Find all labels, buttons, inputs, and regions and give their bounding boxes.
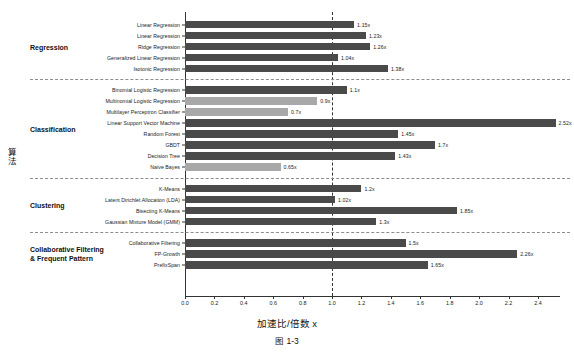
bar bbox=[185, 250, 517, 257]
bar-value-label: 1.45x bbox=[401, 131, 414, 137]
group-label-line: & Frequent Pattern bbox=[30, 254, 104, 263]
bar bbox=[185, 163, 281, 170]
bar bbox=[185, 239, 406, 246]
bar-value-label: 1.02x bbox=[338, 197, 351, 203]
x-axis-tick-label: 2.0 bbox=[475, 300, 483, 306]
bar bbox=[185, 185, 361, 192]
x-axis-tick-label: 0.8 bbox=[299, 300, 307, 306]
group-separator bbox=[30, 79, 570, 80]
category-label: Binomial Logistic Regression bbox=[112, 87, 180, 93]
bar bbox=[185, 43, 370, 50]
bar-value-label: 0.9x bbox=[320, 98, 330, 104]
x-axis-tick bbox=[185, 296, 186, 299]
x-axis-tick-label: 0.0 bbox=[181, 300, 189, 306]
x-axis-tick bbox=[538, 296, 539, 299]
bar-value-label: 2.26x bbox=[520, 251, 533, 257]
bar bbox=[185, 21, 354, 28]
bar-value-label: 1.3x bbox=[379, 219, 389, 225]
group-label-line: Clustering bbox=[30, 201, 65, 210]
category-label: FP-Growth bbox=[154, 251, 180, 257]
category-label: Bisecting K-Means bbox=[136, 208, 180, 214]
bar bbox=[185, 152, 395, 159]
bar bbox=[185, 97, 317, 104]
bar bbox=[185, 65, 388, 72]
x-axis-tick-label: 0.4 bbox=[240, 300, 248, 306]
x-axis-tick-label: 0.6 bbox=[269, 300, 277, 306]
x-axis-tick bbox=[214, 296, 215, 299]
group-label: Classification bbox=[30, 124, 76, 133]
group-label: Clustering bbox=[30, 201, 65, 210]
category-label: Latent Dirichlet Allocation (LDA) bbox=[105, 197, 180, 203]
figure-container: 算法 加速比/倍数 x 图 1-3 0.00.20.40.60.81.01.21… bbox=[0, 0, 574, 355]
bar-value-label: 1.85x bbox=[460, 208, 473, 214]
x-axis-tick bbox=[509, 296, 510, 299]
category-label: Linear Regression bbox=[137, 33, 180, 39]
category-label: Random Forest bbox=[144, 131, 180, 137]
x-axis-tick bbox=[391, 296, 392, 299]
category-label: Isotonic Regression bbox=[133, 66, 180, 72]
bar-value-label: 1.04x bbox=[341, 55, 354, 61]
group-label: Collaborative Filtering& Frequent Patter… bbox=[30, 245, 104, 263]
bar-value-label: 1.43x bbox=[398, 153, 411, 159]
category-label: Multilayer Perceptron Classifier bbox=[107, 109, 180, 115]
bar bbox=[185, 261, 428, 268]
bar bbox=[185, 86, 347, 93]
bar-value-label: 0.65x bbox=[284, 164, 297, 170]
x-axis-tick-label: 2.2 bbox=[505, 300, 513, 306]
bar bbox=[185, 32, 366, 39]
group-label-line: Classification bbox=[30, 124, 76, 133]
bar-value-label: 1.1x bbox=[350, 87, 360, 93]
category-label: Ridge Regression bbox=[138, 44, 180, 50]
x-axis-tick bbox=[303, 296, 304, 299]
category-label: PrefixSpan bbox=[154, 262, 180, 268]
group-separator bbox=[30, 232, 570, 233]
category-label: GBDT bbox=[165, 142, 180, 148]
x-axis-tick bbox=[479, 296, 480, 299]
bar bbox=[185, 218, 376, 225]
bar-value-label: 1.2x bbox=[364, 186, 374, 192]
bar-value-label: 0.7x bbox=[291, 109, 301, 115]
category-label: Linear Regression bbox=[137, 22, 180, 28]
x-axis-tick-label: 1.6 bbox=[417, 300, 425, 306]
x-axis-tick-label: 1.4 bbox=[387, 300, 395, 306]
x-axis-tick-label: 2.4 bbox=[534, 300, 542, 306]
x-axis-tick-label: 1.8 bbox=[446, 300, 454, 306]
x-axis-tick bbox=[361, 296, 362, 299]
bar-value-label: 2.52x bbox=[559, 120, 572, 126]
bar bbox=[185, 207, 457, 214]
bar-value-label: 1.7x bbox=[438, 142, 448, 148]
bar bbox=[185, 141, 435, 148]
bar-value-label: 1.65x bbox=[431, 262, 444, 268]
bar-value-label: 1.23x bbox=[369, 33, 382, 39]
group-label-line: Regression bbox=[30, 42, 68, 51]
x-axis-label: 加速比/倍数 x bbox=[0, 316, 574, 330]
x-axis-tick bbox=[420, 296, 421, 299]
category-label: Naive Bayes bbox=[150, 164, 180, 170]
bar bbox=[185, 108, 288, 115]
x-axis-tick-label: 0.2 bbox=[211, 300, 219, 306]
bar-value-label: 1.5x bbox=[409, 240, 419, 246]
group-label-line: Collaborative Filtering bbox=[30, 245, 104, 254]
category-label: Decision Tree bbox=[148, 153, 180, 159]
bar-value-label: 1.26x bbox=[373, 44, 386, 50]
x-axis-tick-label: 1.0 bbox=[328, 300, 336, 306]
y-axis-label: 算法 bbox=[6, 148, 18, 166]
category-label: Multinomial Logistic Regression bbox=[106, 98, 181, 104]
x-axis-line bbox=[185, 296, 560, 297]
bar bbox=[185, 54, 338, 61]
category-label: Collaborative Filtering bbox=[129, 240, 180, 246]
x-axis-tick-label: 1.2 bbox=[358, 300, 366, 306]
bar bbox=[185, 119, 556, 126]
group-separator bbox=[30, 178, 570, 179]
x-axis-tick bbox=[332, 296, 333, 299]
category-label: K-Means bbox=[159, 186, 180, 192]
bar bbox=[185, 196, 335, 203]
x-axis-tick bbox=[450, 296, 451, 299]
figure-caption: 图 1-3 bbox=[0, 334, 574, 346]
category-label: Generalized Linear Regression bbox=[107, 55, 180, 61]
category-label: Gaussian Mixture Model (GMM) bbox=[105, 219, 180, 225]
group-label: Regression bbox=[30, 42, 68, 51]
x-axis-tick bbox=[273, 296, 274, 299]
bar bbox=[185, 130, 398, 137]
bar-value-label: 1.15x bbox=[357, 22, 370, 28]
